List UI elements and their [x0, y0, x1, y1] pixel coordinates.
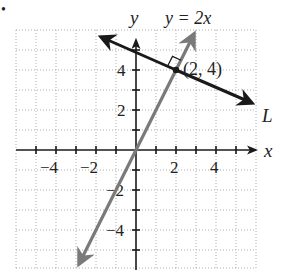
- point-label: (2, 4): [183, 59, 222, 80]
- line2-label: L: [261, 105, 273, 126]
- bullet-marker: •: [1, 2, 6, 17]
- line1-label: y = 2x: [163, 8, 211, 28]
- svg-text:2: 2: [117, 101, 126, 120]
- svg-text:4: 4: [117, 61, 126, 80]
- intersection-point: [173, 67, 179, 73]
- coordinate-plane: •: [0, 0, 282, 274]
- x-axis-label: x: [263, 140, 273, 161]
- svg-text:−4: −4: [40, 158, 59, 177]
- y-axis-label: y: [128, 7, 139, 28]
- svg-text:2: 2: [170, 158, 179, 177]
- svg-text:−4: −4: [106, 221, 125, 240]
- svg-text:−2: −2: [80, 158, 98, 177]
- svg-text:4: 4: [210, 158, 219, 177]
